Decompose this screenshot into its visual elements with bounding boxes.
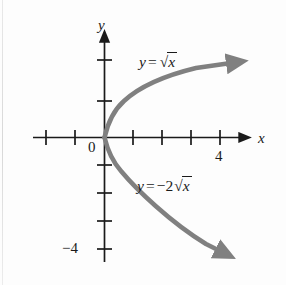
- upper-curve-label: y=√x: [139, 52, 177, 70]
- lower-label-radicand: x: [182, 176, 192, 194]
- y-tick-label-neg4: −4: [62, 241, 78, 256]
- x-tick-label-4: 4: [215, 149, 223, 164]
- upper-label-radical: √x: [159, 52, 177, 70]
- upper-label-operator: =: [146, 53, 159, 70]
- lower-label-coefficient: −2: [157, 177, 174, 194]
- axis-lines: [33, 41, 240, 262]
- y-axis-label: y: [98, 18, 105, 33]
- origin-label: 0: [88, 140, 96, 155]
- plotted-curves: [105, 63, 232, 251]
- curve-neg2-sqrt-x: [105, 138, 221, 252]
- x-axis-label: x: [258, 131, 265, 146]
- upper-label-lhs: y: [139, 53, 146, 70]
- figure-canvas: y x 0 4 −4 y=√x y=−2√x: [0, 0, 286, 285]
- lower-label-lhs: y: [137, 177, 144, 194]
- lower-label-radical: √x: [173, 176, 191, 194]
- upper-label-radicand: x: [167, 52, 177, 70]
- lower-label-operator: =: [144, 177, 157, 194]
- curve-sqrt-x: [105, 63, 232, 138]
- lower-curve-label: y=−2√x: [137, 176, 192, 194]
- coordinate-plane-svg: [0, 0, 286, 285]
